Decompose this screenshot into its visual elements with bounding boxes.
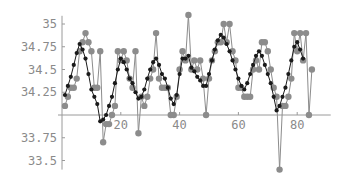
- smoothed-point: [110, 95, 114, 99]
- y-tick-label: 35: [43, 17, 57, 31]
- y-tick-label: 34.75: [21, 40, 57, 54]
- chart-canvas: 33.533.7534.2534.534.753520406080: [0, 0, 337, 185]
- smoothed-point: [104, 113, 108, 117]
- observed-point: [115, 48, 121, 54]
- smoothed-point: [128, 77, 132, 81]
- smoothed-point: [80, 47, 84, 51]
- observed-point: [135, 130, 141, 136]
- observed-point: [179, 48, 185, 54]
- observed-point: [97, 48, 103, 54]
- y-tick-label: 34.5: [28, 63, 57, 77]
- smoothed-point: [122, 60, 126, 64]
- observed-point: [71, 85, 77, 91]
- smoothed-point: [86, 72, 90, 76]
- smoothed-point: [116, 67, 120, 71]
- smoothed-point: [248, 72, 252, 76]
- x-tick-label: 80: [290, 118, 304, 132]
- smoothed-point: [169, 97, 173, 101]
- smoothed-point: [83, 56, 87, 60]
- observed-point: [62, 103, 68, 109]
- smoothed-point: [192, 69, 196, 73]
- smoothed-point: [277, 104, 281, 108]
- observed-point: [221, 21, 227, 27]
- smoothed-point: [225, 42, 229, 46]
- observed-point: [262, 39, 268, 45]
- observed-point: [88, 48, 94, 54]
- observed-point: [106, 121, 112, 127]
- observed-point: [285, 94, 291, 100]
- smoothed-point: [207, 72, 211, 76]
- observed-point: [112, 103, 118, 109]
- smoothed-point: [213, 47, 217, 51]
- smoothed-point: [222, 36, 226, 40]
- observed-point: [153, 30, 159, 36]
- smoothed-point: [254, 54, 258, 58]
- observed-point: [288, 75, 294, 81]
- smoothed-point: [166, 86, 170, 90]
- smoothed-point: [113, 81, 117, 85]
- smoothed-point: [125, 67, 129, 71]
- smoothed-point: [189, 66, 193, 70]
- smoothed-point: [210, 58, 214, 62]
- observed-line: [65, 15, 312, 170]
- smoothed-point: [148, 67, 152, 71]
- observed-point: [85, 39, 91, 45]
- observed-point: [206, 75, 212, 81]
- smoothed-point: [295, 40, 299, 44]
- smoothed-point: [257, 49, 261, 53]
- smoothed-point: [260, 54, 264, 58]
- smoothed-point: [72, 63, 76, 67]
- observed-point: [282, 103, 288, 109]
- observed-point: [185, 12, 191, 18]
- smoothed-point: [216, 38, 220, 42]
- x-tick-label: 60: [231, 118, 245, 132]
- smoothed-point: [101, 117, 105, 121]
- smoothed-point: [66, 84, 70, 88]
- smoothed-point: [289, 58, 293, 62]
- observed-point: [226, 21, 232, 27]
- smoothed-point: [286, 72, 290, 76]
- observed-point: [203, 112, 209, 118]
- smoothed-point: [280, 95, 284, 99]
- smoothed-point: [133, 90, 137, 94]
- observed-point: [94, 85, 100, 91]
- observed-point: [276, 166, 282, 172]
- smoothed-point: [157, 63, 161, 67]
- observed-point: [309, 66, 315, 72]
- observed-point: [100, 139, 106, 145]
- observed-point: [197, 57, 203, 63]
- smoothed-point: [236, 77, 240, 81]
- smoothed-point: [154, 56, 158, 60]
- series-smoothed: [63, 33, 305, 124]
- smoothed-point: [69, 75, 73, 79]
- smoothed-point: [130, 81, 134, 85]
- smoothed-point: [239, 84, 243, 88]
- smoothed-point: [195, 75, 199, 79]
- smoothed-point: [298, 47, 302, 51]
- smoothed-point: [245, 81, 249, 85]
- smoothed-point: [266, 72, 270, 76]
- smoothed-point: [301, 56, 305, 60]
- y-tick-label: 34.25: [21, 85, 57, 99]
- smoothed-point: [151, 60, 155, 64]
- observed-point: [303, 30, 309, 36]
- smoothed-point: [139, 95, 143, 99]
- observed-point: [144, 94, 150, 100]
- smoothed-point: [75, 51, 79, 55]
- x-tick-label: 40: [172, 118, 186, 132]
- y-tick-label: 33.75: [21, 131, 57, 145]
- smoothed-point: [178, 72, 182, 76]
- smoothed-point: [119, 56, 123, 60]
- smoothed-point: [292, 45, 296, 49]
- smoothed-point: [204, 84, 208, 88]
- smoothed-point: [92, 95, 96, 99]
- x-tick-label: 20: [114, 118, 128, 132]
- axes: [58, 16, 331, 170]
- observed-point: [132, 48, 138, 54]
- smoothed-point: [198, 78, 202, 82]
- smoothed-point: [233, 67, 237, 71]
- observed-point: [306, 112, 312, 118]
- observed-point: [74, 75, 80, 81]
- smoothed-point: [160, 72, 164, 76]
- smoothed-point: [63, 93, 67, 97]
